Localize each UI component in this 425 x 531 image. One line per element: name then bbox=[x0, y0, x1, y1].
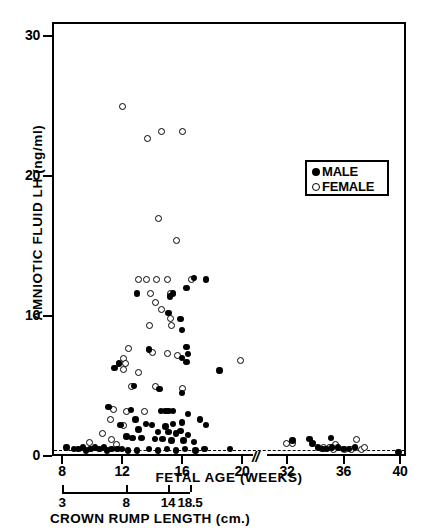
data-point-male bbox=[201, 446, 208, 453]
data-point-female bbox=[173, 237, 180, 244]
data-point-male bbox=[328, 435, 335, 442]
x-axis-label: FETAL AGE (WEEKS) bbox=[52, 470, 406, 485]
data-point-male bbox=[203, 276, 210, 283]
crl-tick-label-3: 3 bbox=[42, 495, 82, 510]
data-point-male bbox=[180, 437, 187, 444]
data-point-female bbox=[353, 436, 360, 443]
data-point-male bbox=[155, 447, 162, 454]
y-tick-0 bbox=[43, 455, 52, 457]
data-point-female bbox=[158, 128, 165, 135]
data-point-male bbox=[105, 404, 112, 411]
crl-tick-label-18.5: 18.5 bbox=[170, 495, 210, 510]
data-point-male bbox=[111, 365, 118, 372]
data-point-female bbox=[107, 416, 114, 423]
data-point-female bbox=[135, 369, 142, 376]
data-point-female bbox=[125, 345, 132, 352]
crl-tick-label-8: 8 bbox=[106, 495, 146, 510]
data-point-male bbox=[173, 447, 180, 454]
legend-entry-male: MALE bbox=[312, 164, 387, 179]
plot-frame bbox=[52, 22, 406, 456]
data-point-male bbox=[134, 447, 141, 454]
data-point-female bbox=[120, 366, 127, 373]
data-point-male bbox=[134, 290, 141, 297]
crl-tick-3 bbox=[62, 485, 64, 492]
data-point-male bbox=[352, 444, 359, 451]
legend-box: MALE FEMALE bbox=[305, 160, 389, 196]
data-point-male bbox=[395, 449, 402, 456]
crl-tick-14 bbox=[168, 485, 170, 492]
data-point-male bbox=[216, 367, 223, 374]
y-tick-30 bbox=[43, 35, 52, 37]
data-point-female bbox=[167, 315, 174, 322]
data-point-male bbox=[129, 435, 136, 442]
data-point-male bbox=[63, 444, 70, 451]
filled-circle-icon bbox=[312, 168, 320, 176]
scatter-plot-figure: 0102030 8121620323640 // MALE FEMALE AMN… bbox=[0, 0, 425, 531]
crown-rump-length-label: CROWN RUMP LENGTH (cm.) bbox=[10, 511, 290, 526]
data-point-male bbox=[167, 293, 174, 300]
data-point-female bbox=[144, 135, 151, 142]
data-point-male bbox=[183, 285, 190, 292]
open-circle-icon bbox=[312, 183, 320, 191]
data-point-female bbox=[164, 350, 171, 357]
data-point-male bbox=[289, 437, 296, 444]
data-point-female bbox=[141, 408, 148, 415]
data-point-female bbox=[152, 299, 159, 306]
y-axis-label: AMNIOTIC FLUID LH (ng/ml) bbox=[30, 98, 45, 348]
data-point-female bbox=[86, 439, 93, 446]
data-point-male bbox=[177, 316, 184, 323]
legend-entry-female: FEMALE bbox=[312, 179, 387, 194]
data-point-female bbox=[119, 103, 126, 110]
data-point-female bbox=[155, 215, 162, 222]
data-point-male bbox=[192, 447, 199, 454]
data-point-male bbox=[156, 386, 163, 393]
data-point-female bbox=[158, 306, 165, 313]
data-point-male bbox=[138, 435, 145, 442]
data-point-male bbox=[135, 426, 142, 433]
data-point-male bbox=[197, 416, 204, 423]
crl-tick-18.5 bbox=[190, 485, 192, 492]
data-point-male bbox=[132, 416, 139, 423]
data-point-female bbox=[143, 276, 150, 283]
axis-break-glyph: // bbox=[252, 448, 258, 465]
data-point-male bbox=[146, 346, 153, 353]
axis-break-symbol: // bbox=[252, 450, 268, 464]
data-point-female bbox=[146, 322, 153, 329]
data-point-male bbox=[177, 428, 184, 435]
data-point-male bbox=[179, 419, 186, 426]
y-tick-label-30: 30 bbox=[0, 27, 40, 43]
data-point-male bbox=[183, 344, 190, 351]
legend-label-male: MALE bbox=[322, 164, 358, 179]
crl-tick-8 bbox=[126, 485, 128, 492]
legend-label-female: FEMALE bbox=[322, 179, 374, 194]
data-point-female bbox=[164, 276, 171, 283]
data-point-female bbox=[179, 128, 186, 135]
crown-rump-length-axis bbox=[62, 492, 190, 494]
data-point-male bbox=[125, 447, 132, 454]
y-tick-label-0: 0 bbox=[0, 447, 40, 463]
data-point-male bbox=[168, 437, 175, 444]
